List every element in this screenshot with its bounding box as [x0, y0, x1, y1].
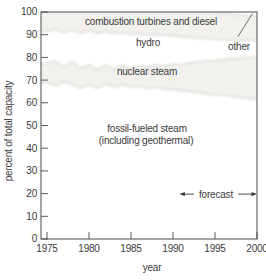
x-tick-label: 1980: [78, 243, 100, 254]
y-tick-label: 50: [26, 120, 37, 131]
capacity-figure: 1975198019851990199520000102030405060708…: [0, 0, 266, 280]
x-tick-label: 1990: [162, 243, 184, 254]
fossil-region-label-line1: fossil-fueled steam: [107, 123, 187, 134]
y-tick-label: 0: [32, 233, 38, 244]
forecast-annotation-label: forecast: [199, 189, 233, 200]
y-tick-label: 100: [21, 6, 38, 17]
x-axis-title: year: [143, 262, 162, 273]
hydro-region-label: hydro: [136, 37, 160, 48]
y-tick-label: 10: [26, 211, 37, 222]
y-axis-title: percent of total capacity: [3, 81, 14, 182]
y-tick-label: 40: [26, 143, 37, 154]
nuclear-region-label: nuclear steam: [117, 66, 177, 77]
x-tick-label: 1975: [36, 243, 58, 254]
forecast-arrow-left-head: [179, 192, 185, 196]
y-tick-label: 60: [26, 97, 37, 108]
x-tick-label: 1985: [120, 243, 142, 254]
forecast-arrow-right-head: [252, 192, 258, 196]
y-tick-label: 30: [26, 165, 37, 176]
y-tick-label: 80: [26, 52, 37, 63]
other-region-label: other: [228, 41, 250, 52]
y-tick-label: 90: [26, 29, 37, 40]
fossil-region-label-line2: (including geothermal): [99, 135, 194, 146]
y-tick-label: 70: [26, 75, 37, 86]
x-tick-label: 2000: [246, 243, 266, 254]
y-tick-label: 20: [26, 188, 37, 199]
combustion-region-label: combustion turbines and diesel: [85, 16, 217, 27]
x-tick-label: 1995: [204, 243, 226, 254]
